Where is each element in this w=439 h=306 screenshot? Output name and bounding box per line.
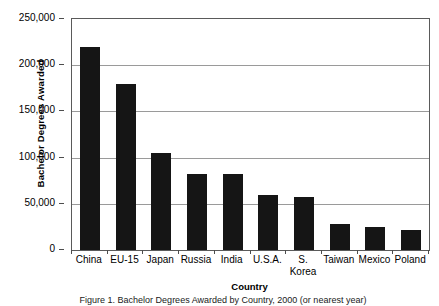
x-axis-tick-labels: ChinaEU-15JapanRussiaIndiaU.S.A.S. Korea… bbox=[71, 254, 428, 284]
y-tick-label: 50,000 bbox=[24, 198, 55, 208]
y-tick-mark bbox=[59, 157, 64, 158]
bar bbox=[365, 227, 385, 250]
bar bbox=[116, 84, 136, 250]
y-tick-label: 200,000 bbox=[19, 59, 55, 69]
y-tick-mark bbox=[59, 18, 64, 19]
plot-area bbox=[71, 18, 430, 251]
bar bbox=[258, 195, 278, 250]
y-tick-mark bbox=[59, 110, 64, 111]
y-tick-label: 0 bbox=[49, 244, 55, 254]
bar bbox=[330, 224, 350, 250]
y-tick-mark bbox=[59, 249, 64, 250]
y-tick-mark bbox=[59, 64, 64, 65]
y-tick-label: 150,000 bbox=[19, 105, 55, 115]
y-axis-tick-labels: 050,000100,000150,000200,000250,000 bbox=[0, 0, 64, 300]
bar bbox=[401, 230, 421, 250]
y-tick-label: 250,000 bbox=[19, 13, 55, 23]
bar bbox=[223, 174, 243, 250]
bar bbox=[187, 174, 207, 250]
y-tick-mark bbox=[59, 203, 64, 204]
figure-caption: Figure 1. Bachelor Degrees Awarded by Co… bbox=[18, 295, 428, 306]
x-axis-title: Country bbox=[71, 281, 428, 292]
bar bbox=[151, 153, 171, 250]
bar bbox=[80, 47, 100, 250]
x-tick-label: Poland bbox=[386, 254, 434, 266]
bar bbox=[294, 197, 314, 250]
bars-layer bbox=[72, 19, 429, 250]
y-tick-label: 100,000 bbox=[19, 152, 55, 162]
